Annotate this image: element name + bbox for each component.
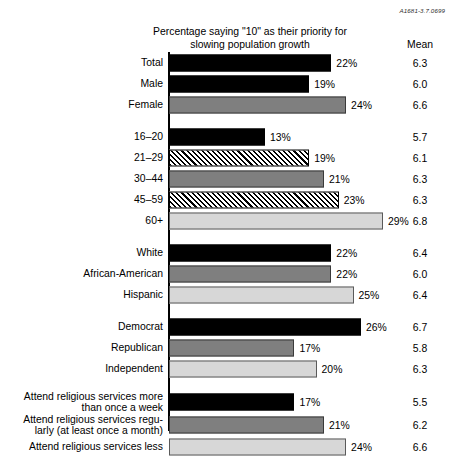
bar-row: Female24%6.6 [0, 94, 453, 115]
reference-code: A1681-3.7.0699 [400, 7, 445, 14]
mean-column-header: Mean [392, 39, 448, 50]
bar-value-label: 21% [329, 419, 350, 430]
bar-value-label: 22% [336, 57, 357, 68]
mean-value: 6.1 [392, 152, 448, 163]
bar-row-label: Republican [0, 342, 163, 353]
bar [169, 360, 317, 377]
bar-row: Male19%6.0 [0, 73, 453, 94]
bar-row: African-American22%6.0 [0, 263, 453, 284]
mean-value: 6.3 [392, 363, 448, 374]
mean-value: 5.7 [392, 131, 448, 142]
bar-value-label: 22% [336, 268, 357, 279]
mean-value: 6.0 [392, 268, 448, 279]
bar-row: White22%6.4 [0, 242, 453, 263]
group-separator [0, 305, 453, 316]
mean-value: 6.8 [392, 215, 448, 226]
bar [169, 438, 346, 455]
bar [169, 170, 324, 187]
bar-group-overall-and-gender: Total22%6.3Male19%6.0Female24%6.6 [0, 52, 453, 115]
mean-value: 6.3 [392, 57, 448, 68]
bar-row-label: Attend religious services less [0, 441, 163, 452]
bar [169, 212, 383, 229]
bar-row-label: 45–59 [0, 194, 163, 205]
bar-row-label: 21–29 [0, 152, 163, 163]
plot-area: Total22%6.3Male19%6.0Female24%6.616–2013… [0, 52, 453, 437]
chart-title-line-1: Percentage saying "10" as their priority… [130, 26, 370, 39]
bar-value-label: 24% [351, 99, 372, 110]
bar-group-race-ethnicity: White22%6.4African-American22%6.0Hispani… [0, 242, 453, 305]
bar-value-label: 24% [351, 441, 372, 452]
bar-row-label: Attend religious services more than once… [0, 390, 163, 413]
group-separator [0, 231, 453, 242]
bar-row-label: 30–44 [0, 173, 163, 184]
chart-figure: A1681-3.7.0699 Percentage saying "10" as… [0, 0, 453, 465]
bar-value-label: 19% [314, 152, 335, 163]
bar-row-label: 16–20 [0, 131, 163, 142]
bar-value-label: 22% [336, 247, 357, 258]
bar-value-label: 17% [299, 342, 320, 353]
group-separator [0, 115, 453, 126]
mean-value: 5.5 [392, 396, 448, 407]
bar-row: 60+29%6.8 [0, 210, 453, 231]
bar [169, 244, 331, 261]
bar [169, 128, 265, 145]
bar [169, 54, 331, 71]
bar-value-label: 25% [359, 289, 380, 300]
bar-row: Attend religious services regu- larly (a… [0, 413, 453, 436]
mean-value: 6.3 [392, 194, 448, 205]
bar [169, 339, 294, 356]
bar [169, 393, 294, 410]
bar [169, 265, 331, 282]
bar-group-age: 16–2013%5.721–2919%6.130–4421%6.345–5923… [0, 126, 453, 231]
mean-value: 6.0 [392, 78, 448, 89]
bar-row: 16–2013%5.7 [0, 126, 453, 147]
bar [169, 416, 324, 433]
bar-row-label: Attend religious services regu- larly (a… [0, 413, 163, 436]
bar-row-label: 60+ [0, 215, 163, 226]
bar-group-religious-attendance: Attend religious services more than once… [0, 390, 453, 457]
bar [169, 75, 309, 92]
bar [169, 286, 354, 303]
bar-row-label: Total [0, 57, 163, 68]
mean-value: 6.6 [392, 441, 448, 452]
chart-title-line-2: slowing population growth [130, 39, 370, 52]
bar-row: Republican17%5.8 [0, 337, 453, 358]
bar-row-label: Female [0, 99, 163, 110]
mean-value: 6.4 [392, 289, 448, 300]
bar-group-party: Democrat26%6.7Republican17%5.8Independen… [0, 316, 453, 379]
bar-value-label: 21% [329, 173, 350, 184]
bar-row: Democrat26%6.7 [0, 316, 453, 337]
bar-rows-container: Total22%6.3Male19%6.0Female24%6.616–2013… [0, 52, 453, 457]
bar-row-label: Democrat [0, 321, 163, 332]
bar-row: Hispanic25%6.4 [0, 284, 453, 305]
bar-row: 21–2919%6.1 [0, 147, 453, 168]
bar-value-label: 23% [344, 194, 365, 205]
bar-row: Total22%6.3 [0, 52, 453, 73]
bar-row: 30–4421%6.3 [0, 168, 453, 189]
group-separator [0, 379, 453, 390]
bar [169, 96, 346, 113]
bar-row-label: Independent [0, 363, 163, 374]
bar-row-label: White [0, 247, 163, 258]
bar [169, 191, 339, 208]
bar-row: Attend religious services more than once… [0, 390, 453, 413]
bar [169, 318, 361, 335]
bar-value-label: 19% [314, 78, 335, 89]
bar-value-label: 26% [366, 321, 387, 332]
bar-value-label: 20% [322, 363, 343, 374]
mean-value: 6.2 [392, 419, 448, 430]
mean-value: 6.4 [392, 247, 448, 258]
bar-row: Attend religious services less24%6.6 [0, 436, 453, 457]
chart-title: Percentage saying "10" as their priority… [130, 26, 370, 51]
bar [169, 149, 309, 166]
bar-row-label: African-American [0, 268, 163, 279]
mean-value: 5.8 [392, 342, 448, 353]
bar-row-label: Male [0, 78, 163, 89]
bar-value-label: 17% [299, 396, 320, 407]
bar-row-label: Hispanic [0, 289, 163, 300]
bar-row: 45–5923%6.3 [0, 189, 453, 210]
bar-row: Independent20%6.3 [0, 358, 453, 379]
mean-value: 6.6 [392, 99, 448, 110]
mean-value: 6.3 [392, 173, 448, 184]
mean-value: 6.7 [392, 321, 448, 332]
